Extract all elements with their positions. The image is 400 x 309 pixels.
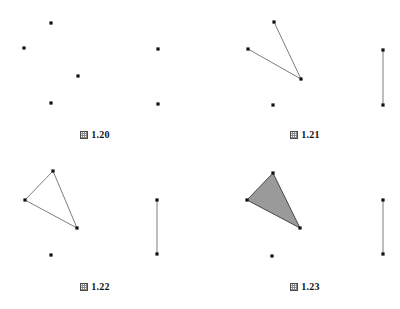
point-left [245, 198, 248, 201]
cjk-figure-marker-icon [290, 131, 298, 139]
figure-number-1-23: 1.23 [301, 281, 320, 292]
point-segment-top [381, 198, 384, 201]
point-apex [51, 169, 54, 172]
figure-canvas-1-20 [0, 0, 200, 130]
point-lower [49, 101, 52, 104]
lines-group-1-22 [25, 171, 157, 254]
point-apex [49, 21, 52, 24]
point-right [76, 74, 79, 77]
point-segment-top [156, 47, 159, 50]
figure-panel-1-22: 1.22 [0, 155, 200, 309]
points-group-1-22 [23, 169, 158, 256]
point-segment-top [155, 198, 158, 201]
point-vertex [75, 226, 78, 229]
cjk-figure-marker-icon [80, 131, 88, 139]
filled-triangle [247, 173, 300, 228]
point-lower [271, 103, 274, 106]
figure-sheet: 1.20 1.21 [0, 0, 400, 309]
point-segment-bottom [381, 103, 384, 106]
figure-caption-1-22: 1.22 [0, 281, 190, 292]
point-left [22, 46, 25, 49]
point-apex [271, 171, 274, 174]
figure-number-1-21: 1.21 [301, 129, 320, 140]
point-lower [270, 254, 273, 257]
edge-left-to-vertex [248, 49, 301, 79]
figure-caption-1-21: 1.21 [210, 129, 400, 140]
figure-canvas-1-21 [210, 0, 400, 130]
edge-apex-to-vertex [53, 171, 77, 228]
point-segment-top [381, 48, 384, 51]
point-vertex [299, 77, 302, 80]
point-vertex [298, 226, 301, 229]
figure-canvas-1-22 [0, 155, 200, 275]
point-apex [272, 20, 275, 23]
figure-panel-1-21: 1.21 [210, 0, 400, 150]
edge-apex-to-left [25, 171, 53, 200]
edge-apex-to-vertex [274, 22, 301, 79]
figure-caption-1-20: 1.20 [0, 129, 190, 140]
point-segment-bottom [155, 252, 158, 255]
lines-group-1-21 [248, 22, 383, 105]
figure-number-1-20: 1.20 [91, 129, 110, 140]
figure-number-1-22: 1.22 [91, 281, 110, 292]
point-lower [49, 253, 52, 256]
edge-left-to-vertex [25, 200, 77, 228]
figure-panel-1-20: 1.20 [0, 0, 200, 150]
points-group-1-20 [22, 21, 159, 105]
point-segment-bottom [156, 102, 159, 105]
point-left [246, 47, 249, 50]
figure-panel-1-23: 1.23 [210, 155, 400, 309]
point-segment-bottom [381, 252, 384, 255]
cjk-figure-marker-icon [80, 283, 88, 291]
cjk-figure-marker-icon [290, 283, 298, 291]
figure-canvas-1-23 [210, 155, 400, 275]
point-left [23, 198, 26, 201]
figure-caption-1-23: 1.23 [210, 281, 400, 292]
polygons-group-1-23 [247, 173, 300, 228]
points-group-1-21 [246, 20, 384, 106]
